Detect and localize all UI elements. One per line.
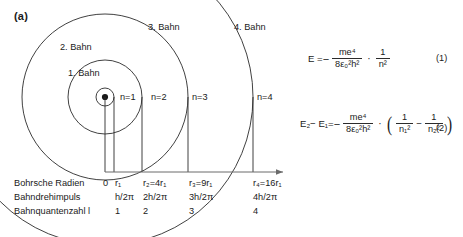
- cell-radien-0: 0: [103, 176, 108, 190]
- eq1-factor-denominator: n²: [376, 58, 390, 69]
- cell-drehimpuls-3: 3h/2π: [189, 190, 213, 204]
- eq2-term1-fraction: 1 n₁²: [396, 113, 413, 134]
- quantum-label-n2: n=2: [151, 92, 167, 102]
- row-label-quantenzahl: Bahnquantenzahl l: [14, 204, 90, 218]
- cell-radien-3: r₃=9r₁: [189, 176, 212, 190]
- equation-energy-difference: E₂− E₁= − me⁴ 8ε₀²h² · ( 1 n₁² − 1 n₂² ): [300, 113, 454, 134]
- eq2-sign: −: [334, 118, 340, 130]
- cell-quantenzahl-4: 4: [253, 204, 258, 218]
- orbit-name-1: 1. Bahn: [68, 68, 100, 78]
- cell-drehimpuls-4: 4h/2π: [253, 190, 277, 204]
- cell-radien-1: r₁: [115, 176, 121, 190]
- equation-tag-2: (2): [436, 123, 447, 133]
- eq1-main-fraction: me⁴ 8ε₀²h²: [332, 48, 362, 69]
- equation-energy-level: E = − me⁴ 8ε₀²h² · 1 n²: [308, 48, 392, 69]
- eq1-numerator: me⁴: [336, 48, 359, 58]
- eq2-term-minus: −: [416, 118, 422, 129]
- cell-quantenzahl-3: 3: [189, 204, 194, 218]
- eq2-operator: ·: [378, 118, 381, 129]
- eq2-denominator: 8ε₀²h²: [343, 123, 373, 134]
- eq2-term1-numerator: 1: [399, 113, 410, 123]
- figure-root: (a) 1. Bahn 2. Bahn 3. Bahn 4. Bahn n=1 …: [0, 0, 463, 237]
- quantum-label-n3: n=3: [192, 92, 208, 102]
- orbit-name-2: 2. Bahn: [60, 42, 92, 52]
- eq2-paren-open: (: [387, 116, 392, 132]
- eq2-numerator: me⁴: [347, 113, 370, 123]
- cell-drehimpuls-2: 2h/2π: [143, 190, 167, 204]
- quantum-label-n1: n=1: [120, 92, 136, 102]
- cell-quantenzahl-1: 1: [115, 204, 120, 218]
- row-label-radien: Bohrsche Radien: [14, 176, 84, 190]
- cell-radien-4: r₄=16r₁: [253, 176, 282, 190]
- eq1-lhs: E =: [308, 53, 323, 64]
- orbit-name-4: 4. Bahn: [234, 22, 266, 32]
- eq1-factor-fraction: 1 n²: [376, 48, 390, 69]
- eq1-sign: −: [323, 53, 329, 65]
- cell-radien-2: r₂=4r₁: [143, 176, 166, 190]
- eq2-term2-numerator: 1: [428, 113, 439, 123]
- row-label-drehimpuls: Bahndrehimpuls: [14, 190, 80, 204]
- cell-drehimpuls-1: h/2π: [115, 190, 134, 204]
- eq1-factor-numerator: 1: [377, 48, 388, 58]
- equation-tag-1: (1): [436, 53, 447, 63]
- eq1-denominator: 8ε₀²h²: [332, 58, 362, 69]
- eq2-main-fraction: me⁴ 8ε₀²h²: [343, 113, 373, 134]
- eq2-term1-denominator: n₁²: [396, 123, 413, 134]
- quantum-label-n4: n=4: [257, 92, 273, 102]
- orbit-name-3: 3. Bahn: [148, 22, 180, 32]
- eq2-lhs: E₂− E₁=: [300, 118, 334, 129]
- cell-quantenzahl-2: 2: [143, 204, 148, 218]
- eq1-operator: ·: [367, 53, 370, 64]
- axis-arrowhead: [276, 169, 283, 175]
- eq2-paren-close: ): [447, 116, 452, 132]
